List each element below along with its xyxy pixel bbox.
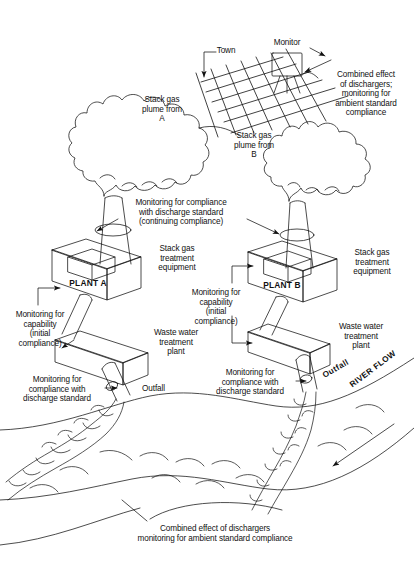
waste-water-treatment-plant-b [248, 324, 330, 374]
discharge-a-note: Monitoring for compliance with discharge… [12, 375, 102, 404]
ambient-air-note: Combined effect of dischargers; monitori… [320, 70, 412, 118]
plume-b-label: Stack gas plume from B [218, 131, 290, 160]
water-plume-a [6, 399, 124, 500]
waste-water-a-label: Waste water treatment plant [140, 328, 212, 357]
discharge-b-note: Monitoring for compliance with discharge… [205, 368, 295, 397]
waste-water-b-label: Waste water treatment plant [325, 322, 397, 351]
capability-b-note: Monitoring for capability (initial compl… [180, 288, 252, 326]
stack-equipment-a-label: Stack gas treatment equipment [148, 244, 206, 273]
monitor-label: Monitor [262, 38, 312, 48]
outfall-pipe-a [102, 362, 130, 401]
ambient-bottom-leader [150, 503, 282, 519]
outfall-pipe-b [296, 355, 317, 392]
plant-a-label: PLANT A [62, 279, 114, 289]
stack-gas-treatment-equipment-a [68, 249, 115, 280]
capability-a-note: Monitoring for capability (initial compl… [4, 310, 76, 348]
pollution-monitoring-diagram: Town Monitor Combined effect of discharg… [0, 0, 414, 571]
ambient-water-note: Combined effect of dischargers monitorin… [107, 524, 323, 543]
plume-a-label: Stack gas plume from A [126, 95, 198, 124]
plant-b-building [248, 241, 337, 302]
town-pointer [204, 52, 216, 77]
stack-gas-treatment-equipment-b [264, 251, 311, 282]
stack-b-compliance-leader [247, 219, 279, 234]
plant-a-building [52, 239, 141, 300]
ambient-bottom-leader-2 [122, 500, 147, 521]
stack-compliance-note: Monitoring for compliance with discharge… [117, 198, 245, 227]
stack-equipment-b-label: Stack gas treatment equipment [343, 248, 401, 277]
stack-a-compliance-leader [97, 219, 118, 231]
water-plume-b [250, 392, 316, 514]
river-flow-arrow [333, 424, 394, 466]
town-label: Town [205, 46, 247, 56]
outfall-a-monitor-ring [105, 380, 119, 392]
plant-b-label: PLANT B [256, 281, 308, 291]
monitor-leader [310, 48, 325, 56]
outfall-a-label: Outfall [142, 384, 186, 394]
